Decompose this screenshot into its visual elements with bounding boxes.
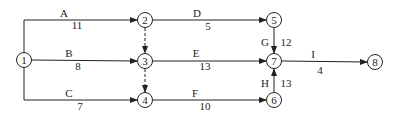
node-1-label: 1 [21, 54, 27, 66]
activity-E-name: E [193, 47, 200, 59]
activity-C-duration: 7 [77, 100, 83, 112]
arrow-C [24, 68, 137, 100]
arrow-I [282, 61, 367, 62]
activity-I-name: I [311, 48, 315, 60]
activity-I-duration: 4 [317, 64, 323, 76]
activity-A-duration: 11 [72, 19, 83, 31]
node-4-label: 4 [142, 94, 148, 106]
network-diagram: 1 2 3 4 5 6 7 8 A 11 B 8 C 7 D 5 E 13 F … [0, 0, 394, 120]
activity-F-duration: 10 [200, 100, 212, 112]
activity-B-name: B [65, 47, 72, 59]
node-7-label: 7 [271, 55, 277, 67]
activity-C-name: C [65, 87, 72, 99]
activity-G-duration: 12 [281, 36, 292, 48]
activity-D-name: D [193, 7, 201, 19]
node-8-label: 8 [372, 56, 378, 68]
node-3-label: 3 [142, 55, 148, 67]
activity-A-name: A [60, 7, 68, 19]
activity-H-duration: 13 [281, 77, 293, 89]
node-2-label: 2 [142, 14, 148, 26]
activity-F-name: F [192, 87, 198, 99]
node-6-label: 6 [271, 94, 277, 106]
activity-H-name: H [261, 77, 269, 89]
activity-D-duration: 5 [205, 20, 211, 32]
arrow-B [32, 60, 137, 61]
activity-G-name: G [261, 36, 269, 48]
activity-E-duration: 13 [200, 60, 212, 72]
node-5-label: 5 [271, 14, 277, 26]
activity-B-duration: 8 [75, 60, 81, 72]
